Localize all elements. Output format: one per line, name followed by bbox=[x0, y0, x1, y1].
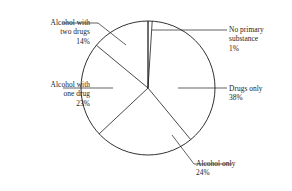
pie-label-value: 23% bbox=[2, 99, 90, 108]
pie-label-alcohol-only: Alcohol only 24% bbox=[196, 159, 290, 178]
pie-label-value: 24% bbox=[196, 168, 290, 177]
pie-label-value: 1% bbox=[229, 44, 291, 53]
pie-label-drugs-only: Drugs only 38% bbox=[229, 84, 291, 103]
pie-label-line-2: one drug bbox=[2, 89, 90, 98]
pie-label-line-1: Alcohol only bbox=[196, 159, 290, 168]
pie-label-line-1: Alcohol with bbox=[2, 80, 90, 89]
pie-label-line-2: two drugs bbox=[2, 27, 90, 36]
pie-label-line-1: No primary bbox=[229, 25, 291, 34]
pie-label-value: 14% bbox=[2, 37, 90, 46]
pie-label-line-2: substance bbox=[229, 34, 291, 43]
pie-label-alcohol-with-one-drug: Alcohol with one drug 23% bbox=[2, 80, 90, 108]
pie-label-no-primary-substance: No primary substance 1% bbox=[229, 25, 291, 53]
pie-label-alcohol-with-two-drugs: Alcohol with two drugs 14% bbox=[2, 18, 90, 46]
pie-label-value: 38% bbox=[229, 93, 291, 102]
pie-chart: Alcohol with two drugs 14% Alcohol with … bbox=[0, 0, 292, 191]
pie-label-line-1: Drugs only bbox=[229, 84, 291, 93]
pie-label-line-1: Alcohol with bbox=[2, 18, 90, 27]
